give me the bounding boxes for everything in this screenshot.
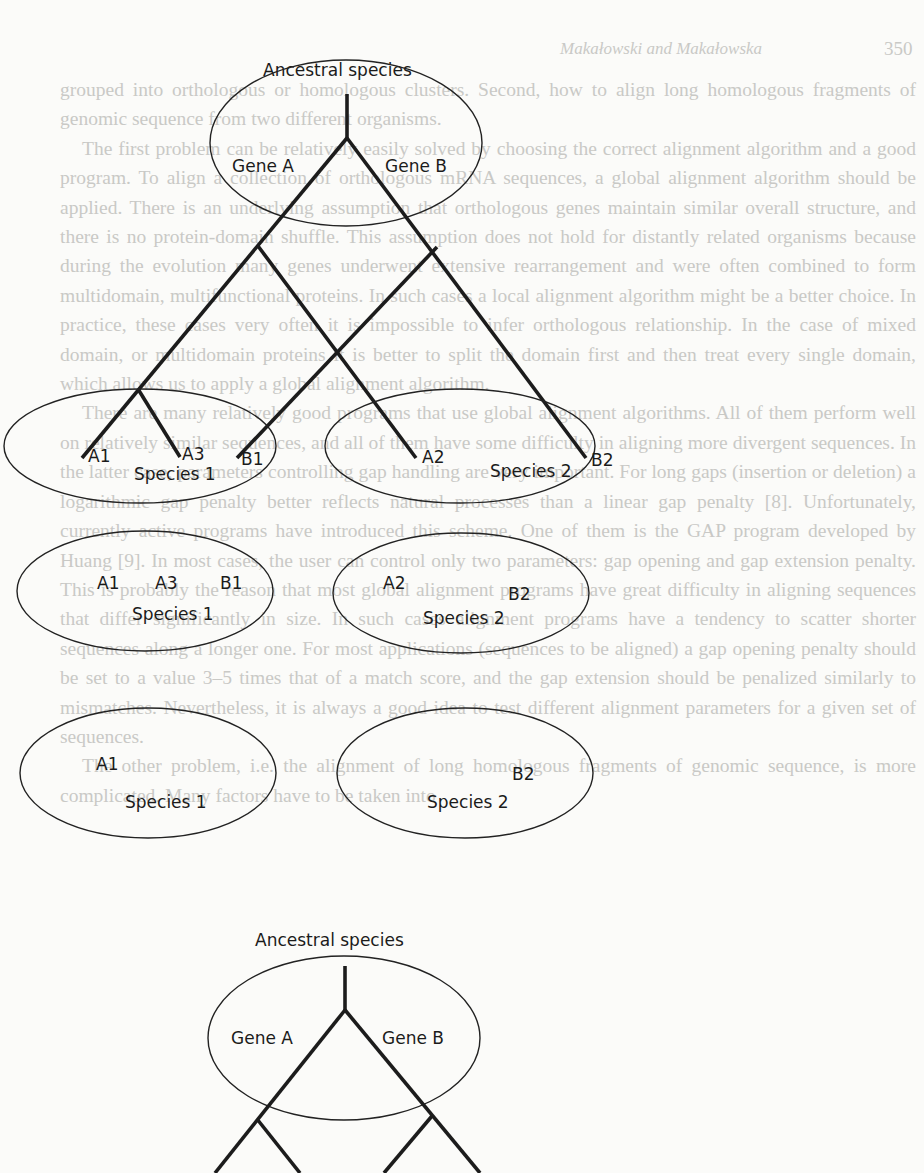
species-2-label: Species 2 [427, 792, 509, 812]
species-1-ellipse [4, 389, 276, 503]
gene-label-b2: B2 [591, 450, 613, 470]
species-2-ellipse [333, 533, 589, 653]
species-2-label: Species 2 [490, 461, 572, 481]
branch-b-split [384, 1116, 432, 1173]
species-1-label: Species 1 [134, 464, 216, 484]
gene-label-b2: B2 [508, 584, 530, 604]
gene-b-label: Gene B [385, 156, 447, 176]
branch-a-split [257, 1119, 300, 1173]
gene-label-a2: A2 [422, 447, 444, 467]
gene-label-a3: A3 [155, 573, 177, 593]
gene-a-label: Gene A [232, 156, 294, 176]
gene-b-label: Gene B [382, 1028, 444, 1048]
ancestral-species-label: Ancestral species [255, 930, 404, 950]
branch-a-to-a3 [138, 389, 180, 457]
species-1-ellipse [20, 708, 276, 838]
species-1-label: Species 1 [132, 604, 214, 624]
top-tree-panel: Ancestral species Gene A Gene B A1 A3 B1… [4, 60, 613, 503]
gene-label-b1: B1 [241, 449, 263, 469]
reduced-sets-panel: A1 Species 1 B2 Species 2 [20, 708, 593, 838]
species-1-label: Species 1 [125, 792, 207, 812]
gene-label-a1: A1 [96, 754, 118, 774]
gene-label-b2: B2 [512, 764, 534, 784]
gene-label-a3: A3 [182, 444, 204, 464]
gene-label-a2: A2 [383, 573, 405, 593]
branch-gene-b-to-b2 [347, 138, 586, 458]
middle-sets-panel: A1 A3 B1 Species 1 A2 B2 Species 2 [17, 531, 589, 653]
ancestral-species-label: Ancestral species [263, 60, 412, 80]
gene-a-label: Gene A [231, 1028, 293, 1048]
bottom-tree-panel: Ancestral species Gene A Gene B [208, 930, 480, 1173]
ancestral-species-ellipse [210, 60, 482, 226]
branch-gene-a-to-a1 [82, 138, 347, 458]
species-2-ellipse [337, 708, 593, 838]
gene-label-b1: B1 [220, 573, 242, 593]
species-2-ellipse [325, 389, 595, 503]
gene-label-a1: A1 [88, 446, 110, 466]
gene-tree-diagram: Ancestral species Gene A Gene B A1 A3 B1… [0, 0, 924, 1173]
species-2-label: Species 2 [423, 608, 505, 628]
gene-label-a1: A1 [97, 573, 119, 593]
